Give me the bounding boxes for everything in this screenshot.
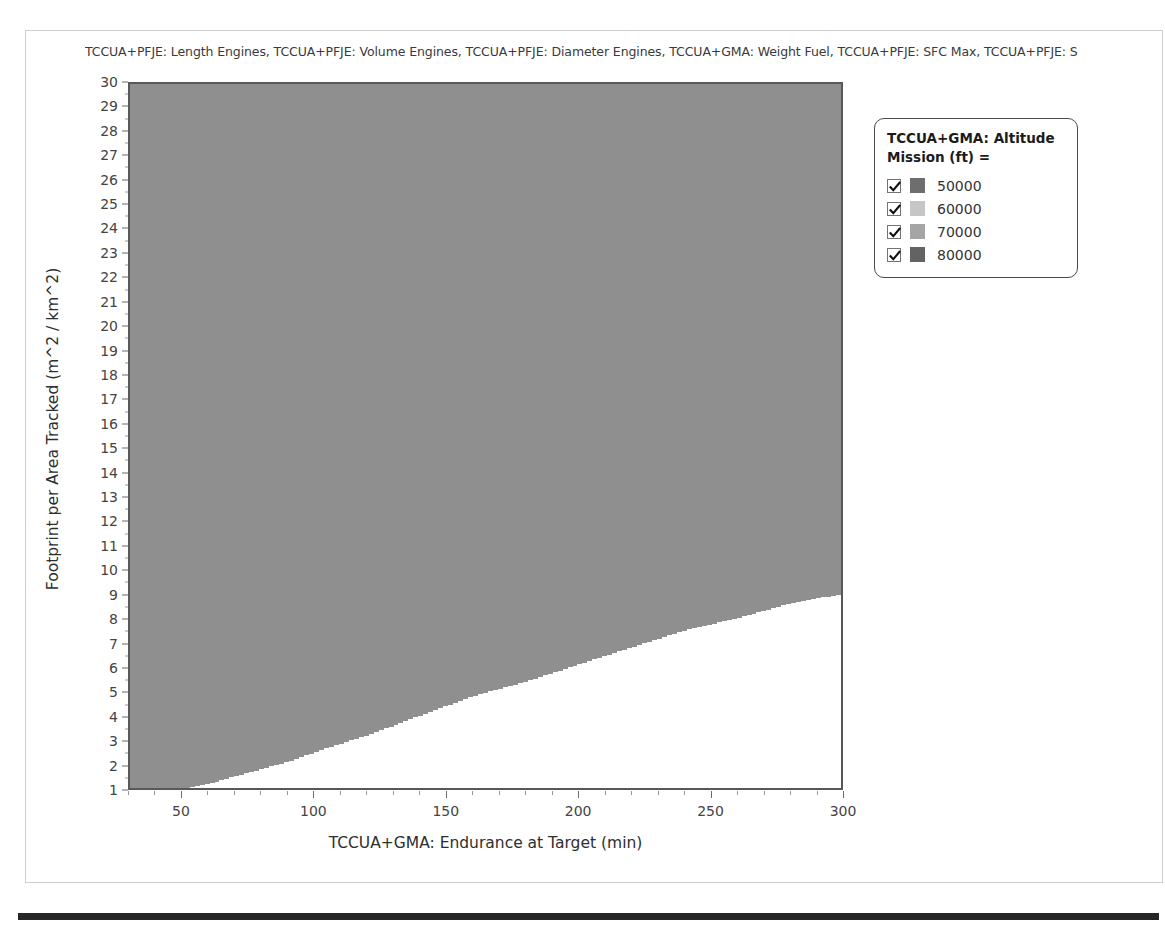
- y-tick-label: 21: [100, 295, 118, 309]
- legend-item-label: 80000: [937, 248, 982, 262]
- x-minor-tick-mark: [817, 791, 818, 795]
- y-minor-tick-mark: [125, 728, 128, 729]
- x-tick-mark: [313, 791, 314, 798]
- legend-item[interactable]: 50000: [887, 174, 1065, 197]
- y-tick-label: 2: [109, 759, 118, 773]
- legend-checkbox[interactable]: [887, 202, 901, 216]
- x-minor-tick-mark: [764, 791, 765, 795]
- y-tick-label: 29: [100, 99, 118, 113]
- y-tick-mark: [122, 277, 128, 278]
- y-tick-label: 6: [109, 661, 118, 675]
- legend-checkbox[interactable]: [887, 179, 901, 193]
- x-tick-mark: [711, 791, 712, 798]
- y-tick-label: 19: [100, 344, 118, 358]
- y-tick-mark: [122, 399, 128, 400]
- x-minor-tick-mark: [154, 791, 155, 795]
- x-minor-tick-mark: [525, 791, 526, 795]
- check-icon: [889, 250, 901, 262]
- y-tick-mark: [122, 497, 128, 498]
- x-tick-label: 100: [300, 804, 327, 818]
- y-tick-label: 30: [100, 75, 118, 89]
- y-minor-tick-mark: [125, 460, 128, 461]
- y-axis-title: Footprint per Area Tracked (m^2 / km^2): [44, 124, 62, 734]
- y-tick-mark: [122, 374, 128, 375]
- legend-title-line-1: TCCUA+GMA: Altitude: [887, 129, 1065, 148]
- y-tick-label: 16: [100, 417, 118, 431]
- check-icon: [889, 227, 901, 239]
- legend-color-swatch: [910, 178, 925, 193]
- y-tick-mark: [122, 130, 128, 131]
- y-tick-mark: [122, 423, 128, 424]
- y-minor-tick-mark: [125, 655, 128, 656]
- y-minor-tick-mark: [125, 338, 128, 339]
- y-tick-mark: [122, 155, 128, 156]
- x-minor-tick-mark: [393, 791, 394, 795]
- legend-title-line-2: Mission (ft) =: [887, 148, 1065, 167]
- x-minor-tick-mark: [631, 791, 632, 795]
- check-icon: [889, 181, 901, 193]
- legend-item[interactable]: 70000: [887, 220, 1065, 243]
- y-tick-mark: [122, 570, 128, 571]
- legend-item-label: 70000: [937, 225, 982, 239]
- y-tick-mark: [122, 667, 128, 668]
- y-tick-label: 3: [109, 734, 118, 748]
- y-tick-mark: [122, 252, 128, 253]
- x-minor-tick-mark: [737, 791, 738, 795]
- y-minor-tick-mark: [125, 265, 128, 266]
- y-minor-tick-mark: [125, 509, 128, 510]
- y-axis: 1234567891011121314151617181920212223242…: [70, 82, 128, 790]
- y-tick-mark: [122, 301, 128, 302]
- x-minor-tick-mark: [260, 791, 261, 795]
- legend-panel[interactable]: TCCUA+GMA: Altitude Mission (ft) = 50000…: [874, 118, 1078, 278]
- x-tick-label: 200: [565, 804, 592, 818]
- y-minor-tick-mark: [125, 143, 128, 144]
- y-tick-label: 27: [100, 148, 118, 162]
- legend-items: 50000600007000080000: [887, 174, 1065, 266]
- y-tick-mark: [122, 448, 128, 449]
- legend-title: TCCUA+GMA: Altitude Mission (ft) =: [887, 129, 1065, 167]
- legend-color-swatch: [910, 247, 925, 262]
- y-tick-label: 24: [100, 221, 118, 235]
- x-tick-label: 150: [432, 804, 459, 818]
- x-tick-mark: [843, 791, 844, 798]
- x-minor-tick-mark: [366, 791, 367, 795]
- legend-item[interactable]: 60000: [887, 197, 1065, 220]
- y-minor-tick-mark: [125, 240, 128, 241]
- y-minor-tick-mark: [125, 631, 128, 632]
- plot-area[interactable]: [128, 82, 843, 790]
- y-tick-label: 20: [100, 319, 118, 333]
- y-tick-label: 17: [100, 392, 118, 406]
- legend-item[interactable]: 80000: [887, 243, 1065, 266]
- x-minor-tick-mark: [287, 791, 288, 795]
- y-tick-mark: [122, 643, 128, 644]
- y-tick-mark: [122, 106, 128, 107]
- y-minor-tick-mark: [125, 533, 128, 534]
- x-axis: 50100150200250300: [128, 790, 843, 835]
- y-tick-label: 23: [100, 246, 118, 260]
- y-minor-tick-mark: [125, 94, 128, 95]
- y-tick-mark: [122, 545, 128, 546]
- legend-checkbox[interactable]: [887, 225, 901, 239]
- y-tick-mark: [122, 594, 128, 595]
- legend-color-swatch: [910, 224, 925, 239]
- y-tick-mark: [122, 82, 128, 83]
- y-tick-label: 7: [109, 637, 118, 651]
- y-minor-tick-mark: [125, 436, 128, 437]
- legend-checkbox[interactable]: [887, 248, 901, 262]
- y-minor-tick-mark: [125, 118, 128, 119]
- y-minor-tick-mark: [125, 387, 128, 388]
- x-tick-mark: [446, 791, 447, 798]
- y-minor-tick-mark: [125, 606, 128, 607]
- legend-item-label: 60000: [937, 202, 982, 216]
- x-minor-tick-mark: [234, 791, 235, 795]
- x-minor-tick-mark: [340, 791, 341, 795]
- y-tick-mark: [122, 765, 128, 766]
- x-tick-mark: [181, 791, 182, 798]
- check-icon: [889, 204, 901, 216]
- x-axis-title: TCCUA+GMA: Endurance at Target (min): [128, 834, 843, 852]
- y-tick-label: 5: [109, 685, 118, 699]
- y-tick-mark: [122, 741, 128, 742]
- y-minor-tick-mark: [125, 484, 128, 485]
- y-minor-tick-mark: [125, 289, 128, 290]
- y-tick-mark: [122, 472, 128, 473]
